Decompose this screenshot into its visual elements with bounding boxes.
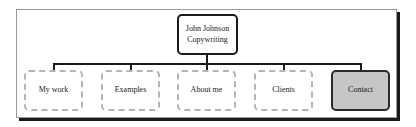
node-label: My work [39,85,69,96]
node-label: Clients [272,85,295,96]
node-label: About me [191,85,223,96]
node-label: Examples [115,85,147,96]
root-node-john-johnson-copywriting[interactable]: John Johnson Copywriting [177,14,238,55]
root-label-line2: Copywriting [186,35,229,46]
root-label-line1: John Johnson [186,24,229,35]
node-about-me[interactable]: About me [177,70,236,111]
node-examples[interactable]: Examples [101,70,160,111]
node-label: Contact [348,85,373,96]
node-my-work[interactable]: My work [24,70,83,111]
node-clients[interactable]: Clients [254,70,313,111]
node-contact[interactable]: Contact [331,70,390,111]
